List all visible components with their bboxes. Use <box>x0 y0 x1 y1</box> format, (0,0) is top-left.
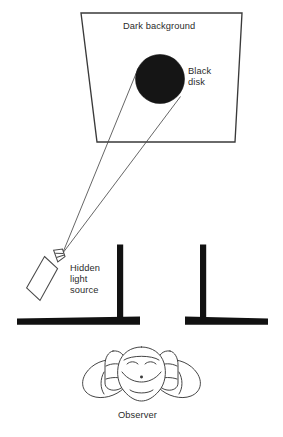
observer-nose <box>140 376 143 379</box>
black-disk-label-line1: Black <box>188 66 211 76</box>
light-source-body <box>27 257 58 301</box>
dark-background-label: Dark background <box>123 21 195 32</box>
hidden-light-source-label-line1: Hidden <box>70 263 100 273</box>
right-baseline <box>185 317 268 325</box>
occluder-structure <box>17 245 268 325</box>
black-disk-label: Blackdisk <box>188 66 211 88</box>
observer-figure <box>83 347 201 401</box>
right-occluder-post <box>200 245 206 322</box>
figure-drawing <box>0 0 283 437</box>
black-disk-label-line2: disk <box>188 77 205 87</box>
left-occluder-post <box>117 245 123 322</box>
hidden-light-source-label-line3: source <box>70 285 99 295</box>
hidden-light-source-box <box>27 249 65 301</box>
figure-canvas: Dark background Blackdisk Hiddenlightsou… <box>0 0 283 437</box>
hidden-light-source-label-line2: light <box>70 274 88 284</box>
hidden-light-source-label: Hiddenlightsource <box>70 263 100 296</box>
black-disk <box>136 55 185 104</box>
left-baseline <box>17 317 140 325</box>
observer-label: Observer <box>118 410 157 421</box>
